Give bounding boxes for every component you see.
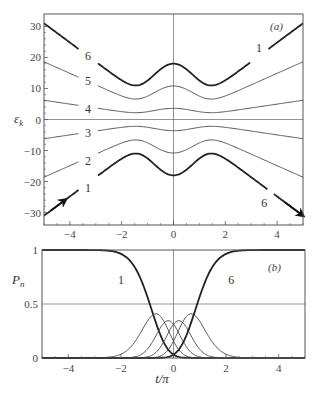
panel-a: −4−2024−30−20−100102030 65432116 (a) εk: [14, 14, 303, 240]
panel-a-ylabel: εk: [14, 111, 24, 128]
curve-label-2: 2: [85, 154, 91, 168]
x-tick-label: 2: [223, 362, 229, 374]
curve-label-1: 1: [256, 41, 262, 55]
y-tick-label: 0: [36, 114, 42, 126]
y-tick-label: 20: [30, 51, 42, 63]
curve-label-1: 1: [85, 181, 91, 195]
y-tick-label: 30: [30, 20, 42, 32]
curve-label-6: 6: [85, 49, 91, 63]
panel-b-tag: (b): [268, 261, 281, 274]
panel-a-curve-labels: 65432116: [85, 41, 267, 210]
curve-label-1: 1: [118, 273, 124, 287]
curve-label-6: 6: [228, 273, 234, 287]
y-tick-label: −30: [24, 207, 42, 219]
y-tick-label: 10: [30, 82, 42, 94]
arrow-icon-start: [50, 200, 64, 211]
y-tick-label: −20: [24, 176, 42, 188]
y-tick-label: −10: [24, 145, 42, 157]
x-tick-label: −4: [62, 362, 74, 374]
arrow-icon-end: [285, 202, 302, 215]
panel-a-tag: (a): [270, 20, 283, 33]
x-axis-label: t/π: [155, 371, 169, 386]
y-tick-label: 0: [33, 352, 39, 364]
y-tick-label: 0.5: [24, 298, 38, 310]
x-tick-label: −2: [115, 362, 127, 374]
ylabel-subscript-k: k: [19, 118, 24, 128]
figure: −4−2024−30−20−100102030 65432116 (a) εk …: [0, 0, 321, 402]
curve-label-4: 4: [85, 102, 91, 116]
panel-b-ticks: −4−202400.51: [24, 244, 305, 374]
panel-b-curve-labels: 16: [118, 273, 234, 287]
panel-b-ylabel: Pn: [11, 272, 25, 289]
x-tick-label: 0: [171, 362, 177, 374]
x-tick-label: 2: [223, 228, 229, 240]
curve-label-6: 6: [261, 196, 267, 210]
x-tick-label: −4: [64, 228, 76, 240]
x-tick-label: −2: [116, 228, 128, 240]
x-tick-label: 4: [274, 228, 280, 240]
curve-label-5: 5: [85, 74, 91, 88]
ylabel-subscript-n: n: [20, 279, 25, 289]
panel-b: −4−202400.51 16 (b) Pn: [11, 244, 305, 374]
x-tick-label: 4: [276, 362, 282, 374]
panel-a-reference-lines: [44, 14, 303, 225]
x-tick-label: 0: [171, 228, 177, 240]
curve-label-3: 3: [85, 126, 91, 140]
y-tick-label: 1: [33, 244, 39, 256]
ylabel-P: P: [11, 272, 20, 287]
